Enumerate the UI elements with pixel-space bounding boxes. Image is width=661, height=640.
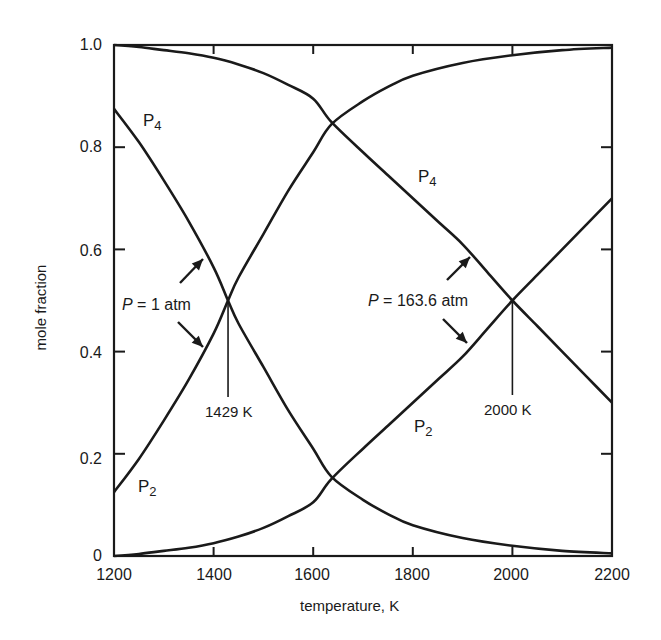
species-letter: P [143,111,154,130]
species-subscript: 2 [425,424,432,439]
pressure-value: = 1 atm [133,296,191,313]
annotation-p-163atm: P = 163.6 atm [368,293,468,309]
x-tick-label-2000: 2000 [481,567,541,583]
x-tick-label-1600: 1600 [282,567,342,583]
pressure-symbol: P [122,296,133,313]
chart-canvas [0,0,661,640]
species-letter: P [138,477,149,496]
y-tick-label-0.2: 0.2 [62,451,102,467]
arrow-1atm-lower [178,322,203,347]
pressure-value: = 163.6 atm [379,292,468,309]
label-p2-163atm: P2 [414,418,433,438]
annotation-2000k: 2000 K [484,402,532,417]
arrow-163atm-upper [447,257,470,280]
x-axis-title: temperature, K [300,598,399,613]
y-axis-title: mole fraction [33,253,48,363]
label-p2-1atm: P2 [138,478,157,498]
x-tick-label-1800: 1800 [382,567,442,583]
pressure-symbol: P [368,292,379,309]
annotation-p-1atm: P = 1 atm [122,297,191,313]
y-tick-label-0.4: 0.4 [62,345,102,361]
label-p4-1atm: P4 [143,112,162,132]
x-tick-label-2200: 2200 [582,567,642,583]
annotation-arrows [178,257,512,397]
species-letter: P [418,167,429,186]
x-tick-label-1400: 1400 [184,567,244,583]
x-tick-label-1200: 1200 [84,567,144,583]
species-letter: P [414,417,425,436]
species-subscript: 4 [429,174,436,189]
arrow-1atm-upper [180,259,203,283]
curve-p2-1atm [114,48,612,493]
species-subscript: 2 [149,484,156,499]
species-subscript: 4 [154,118,161,133]
label-p4-163atm: P4 [418,168,437,188]
y-tick-label-0.8: 0.8 [62,139,102,155]
y-tick-label-1.0: 1.0 [62,37,102,53]
y-tick-label-0.6: 0.6 [62,243,102,259]
y-tick-label-0: 0 [62,548,102,564]
annotation-1429k: 1429 K [205,404,253,419]
arrow-163atm-lower [443,319,467,343]
